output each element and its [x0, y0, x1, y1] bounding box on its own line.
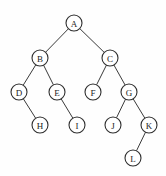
tree-edge-g-j [116, 99, 125, 118]
tree-node-i[interactable]: I [69, 117, 85, 133]
node-label-i: I [76, 121, 79, 131]
tree-edge-k-l [136, 132, 145, 151]
tree-node-g[interactable]: G [121, 84, 137, 100]
tree-node-h[interactable]: H [32, 117, 48, 133]
tree-node-e[interactable]: E [49, 84, 65, 100]
node-label-e: E [54, 88, 60, 98]
tree-edge-b-d [23, 65, 36, 85]
tree-edge-d-h [23, 99, 35, 119]
tree-edge-c-g [114, 65, 125, 85]
tree-canvas: ABCDEFGHIJKL [0, 0, 166, 176]
binary-tree-figure: ABCDEFGHIJKL [0, 0, 166, 176]
tree-edge-a-c [80, 29, 105, 53]
tree-node-k[interactable]: K [141, 117, 157, 133]
tree-edge-g-k [133, 99, 145, 118]
tree-node-l[interactable]: L [125, 150, 141, 166]
node-label-l: L [130, 154, 136, 164]
tree-node-f[interactable]: F [85, 84, 101, 100]
node-label-a: A [71, 19, 78, 29]
tree-node-b[interactable]: B [32, 50, 48, 66]
node-label-h: H [37, 121, 44, 131]
node-label-f: F [90, 88, 95, 98]
node-label-g: G [126, 88, 133, 98]
tree-node-j[interactable]: J [105, 117, 121, 133]
node-label-b: B [37, 54, 43, 64]
node-label-k: K [146, 121, 153, 131]
tree-node-a[interactable]: A [66, 15, 82, 31]
tree-edge-a-b [46, 29, 69, 53]
node-label-d: D [16, 88, 23, 98]
tree-nodes-group: ABCDEFGHIJKL [11, 15, 157, 166]
tree-edge-c-f [97, 65, 107, 85]
node-label-j: J [111, 121, 115, 131]
node-label-c: C [107, 54, 113, 64]
tree-edge-b-e [44, 65, 54, 85]
tree-node-c[interactable]: C [102, 50, 118, 66]
tree-node-d[interactable]: D [11, 84, 27, 100]
tree-edge-e-i [61, 99, 73, 118]
